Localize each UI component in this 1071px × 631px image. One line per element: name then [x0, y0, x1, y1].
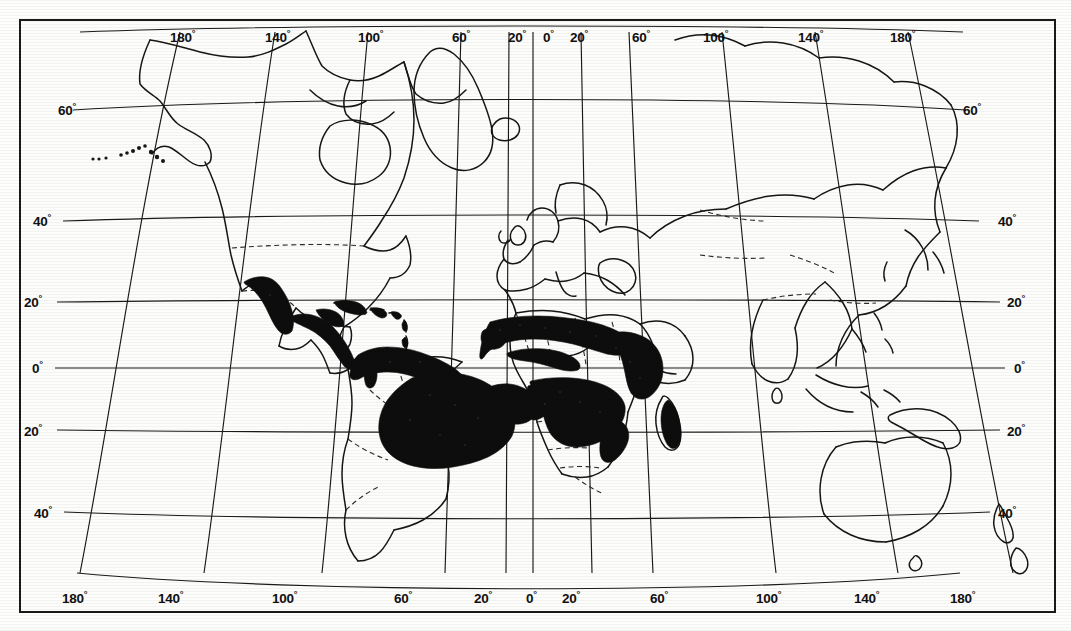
lat-label-right-0: 0°	[1014, 358, 1025, 376]
lon-label-top-60e: 60°	[632, 27, 650, 45]
lon-label-bottom-180w: 180°	[62, 588, 87, 606]
lat-label-right-60n: 60°	[963, 100, 981, 118]
coastlines	[91, 31, 1027, 574]
lon-label-top-180w: 180°	[170, 27, 195, 45]
lon-label-bottom-20e: 20°	[562, 588, 580, 606]
lat-label-right-40n: 40°	[998, 211, 1016, 229]
lat-label-left-40n: 40°	[33, 211, 51, 229]
lon-label-bottom-0: 0°	[526, 588, 537, 606]
shade-mozambique-arm	[600, 418, 629, 462]
lon-label-bottom-100w: 100°	[272, 588, 297, 606]
lon-label-bottom-140e: 140°	[854, 588, 879, 606]
shade-antilles	[334, 301, 367, 315]
shade-hispaniola	[370, 308, 387, 318]
lon-label-top-60w: 60°	[452, 27, 470, 45]
map-page: 180° 140° 100° 60° 20° 0° 20° 60° 100° 1…	[0, 0, 1071, 631]
lat-label-right-40s: 40°	[998, 503, 1016, 521]
graticule-meridians	[80, 32, 1013, 573]
lat-label-left-60n: 60°	[58, 100, 76, 118]
lat-label-left-20n: 20°	[24, 292, 42, 310]
lon-label-bottom-180e: 180°	[950, 588, 975, 606]
lon-label-bottom-60w: 60°	[394, 588, 412, 606]
lon-label-top-20w: 20°	[508, 27, 526, 45]
shade-lesser-antilles-a	[402, 320, 407, 331]
lon-label-top-20e: 20°	[570, 27, 588, 45]
lat-label-left-0: 0°	[32, 358, 43, 376]
lat-label-left-40s: 40°	[34, 503, 52, 521]
shade-andes-strip	[364, 363, 377, 388]
shade-west-africa-coast	[481, 328, 506, 350]
shade-east-africa	[608, 332, 663, 399]
lon-label-bottom-100e: 100°	[756, 588, 781, 606]
world-map-graphic	[0, 0, 1071, 631]
lon-label-top-140e: 140°	[798, 27, 823, 45]
lat-label-left-20s: 20°	[24, 421, 42, 439]
lon-label-top-100w: 100°	[358, 27, 383, 45]
lon-label-top-100e: 100°	[703, 27, 728, 45]
shade-puerto-rico	[391, 312, 401, 320]
shaded-distribution-areas	[244, 277, 681, 469]
lon-label-bottom-140w: 140°	[158, 588, 183, 606]
lon-label-top-0: 0°	[543, 27, 554, 45]
lon-label-bottom-60e: 60°	[650, 588, 668, 606]
lon-label-bottom-20w: 20°	[474, 588, 492, 606]
lat-label-right-20n: 20°	[1007, 292, 1025, 310]
shade-central-america	[288, 314, 356, 370]
shade-madagascar-east	[661, 400, 681, 449]
lon-label-top-140w: 140°	[265, 27, 290, 45]
shade-lesser-antilles-b	[402, 337, 407, 348]
shade-western-mexico	[244, 277, 294, 335]
lat-label-right-20s: 20°	[1007, 421, 1025, 439]
lon-label-top-180e: 180°	[890, 27, 915, 45]
graticule-parallels	[55, 26, 1005, 589]
